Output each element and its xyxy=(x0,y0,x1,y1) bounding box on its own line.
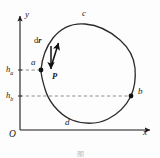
h-a-subscript: a xyxy=(10,70,13,76)
point-label-d: d xyxy=(65,118,70,127)
gridline-label-h-a: ha xyxy=(6,65,13,76)
vector-label-P: P xyxy=(52,72,57,81)
figure-container: y x O ha hb a b c d dr P 图 xyxy=(0,0,160,158)
vector-group xyxy=(51,43,59,69)
diagram-canvas xyxy=(0,0,160,158)
point-marker-b xyxy=(129,94,134,99)
point-label-c: c xyxy=(82,9,86,18)
point-marker-a xyxy=(39,68,44,73)
vector-dr-arrow xyxy=(51,43,59,67)
gridline-group xyxy=(18,70,131,96)
axes-group xyxy=(20,16,150,130)
h-b-subscript: b xyxy=(10,96,13,102)
origin-label: O xyxy=(9,130,16,140)
figure-caption: 图 xyxy=(0,149,160,157)
point-label-b: b xyxy=(138,87,143,96)
dr-vector-r: r xyxy=(38,35,41,45)
point-label-a: a xyxy=(31,58,36,67)
vector-label-dr: dr xyxy=(34,36,42,45)
y-axis-label: y xyxy=(25,10,29,19)
x-axis-label: x xyxy=(143,128,147,137)
gridline-label-h-b: hb xyxy=(6,91,13,102)
